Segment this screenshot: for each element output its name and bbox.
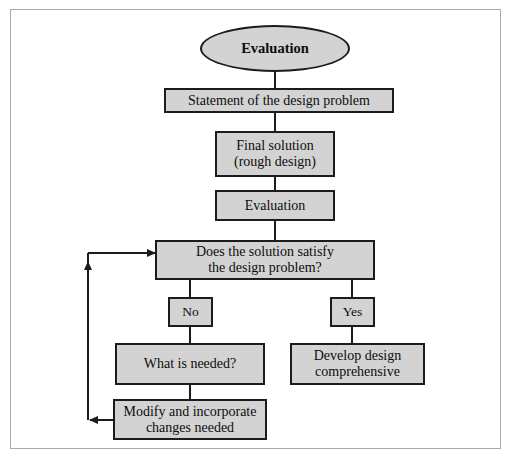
node-modify-label: Modify and incorporate changes needed	[124, 404, 257, 435]
node-final-solution[interactable]: Final solution (rough design)	[215, 131, 335, 177]
node-decision-label: Does the solution satisfy the design pro…	[196, 244, 334, 275]
node-decision[interactable]: Does the solution satisfy the design pro…	[155, 240, 375, 280]
node-what-is-needed-label: What is needed?	[144, 356, 237, 372]
node-statement[interactable]: Statement of the design problem	[164, 88, 394, 113]
node-statement-label: Statement of the design problem	[188, 93, 370, 109]
node-modify[interactable]: Modify and incorporate changes needed	[113, 399, 267, 440]
node-start-evaluation[interactable]: Evaluation	[200, 25, 350, 72]
node-what-is-needed[interactable]: What is needed?	[115, 343, 265, 385]
node-evaluation-label: Evaluation	[245, 198, 306, 214]
node-start-evaluation-label: Evaluation	[241, 40, 309, 56]
node-develop-design[interactable]: Develop design comprehensive	[290, 343, 425, 385]
node-develop-design-label: Develop design comprehensive	[314, 348, 401, 379]
node-final-solution-label: Final solution (rough design)	[234, 138, 316, 169]
node-yes-label: Yes	[343, 304, 363, 319]
node-yes[interactable]: Yes	[330, 297, 375, 327]
node-no-label: No	[182, 304, 199, 319]
node-evaluation[interactable]: Evaluation	[215, 190, 335, 221]
flowchart-page: Evaluation Statement of the design probl…	[0, 0, 515, 464]
node-no[interactable]: No	[168, 297, 213, 327]
